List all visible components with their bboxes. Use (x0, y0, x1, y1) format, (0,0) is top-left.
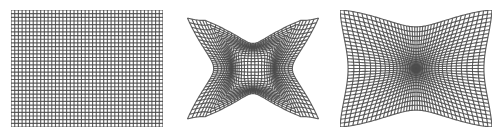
grid-lines (340, 10, 492, 127)
undistorted-grid-svg (11, 10, 163, 127)
panel-undistorted-grid (11, 10, 163, 127)
panel-pinch-distortion-grid (177, 10, 329, 127)
bubble-distortion-grid-svg (340, 10, 492, 127)
grid-line-horizontal (342, 92, 490, 111)
figure-root (0, 0, 500, 139)
grid-lines (11, 10, 163, 127)
grid-line-horizontal (342, 26, 490, 45)
grid-lines (188, 18, 319, 119)
panel-bubble-distortion-grid (340, 10, 492, 127)
pinch-distortion-grid-svg (177, 10, 329, 127)
